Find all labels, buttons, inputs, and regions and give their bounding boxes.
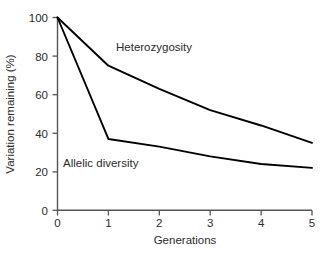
y-tick-label: 60	[35, 89, 48, 101]
series-label-allelic-diversity: Allelic diversity	[63, 157, 139, 169]
x-tick-label: 4	[258, 217, 265, 229]
x-tick-label: 5	[309, 217, 315, 229]
y-tick-labels: 100 80 60 40 20 0	[29, 12, 48, 217]
x-tick-label: 1	[105, 217, 111, 229]
chart-figure: 100 80 60 40 20 0 0 1 2 3 4 5 Generation…	[0, 0, 332, 253]
y-tick-label: 0	[42, 205, 48, 217]
x-tick-label: 2	[156, 217, 162, 229]
x-axis-ticks	[58, 210, 313, 215]
series-line-heterozygosity	[58, 18, 313, 143]
x-tick-label: 3	[207, 217, 213, 229]
x-tick-label: 0	[54, 217, 60, 229]
y-tick-label: 80	[35, 51, 48, 63]
y-tick-label: 100	[29, 12, 48, 24]
y-tick-label: 20	[35, 166, 48, 178]
x-tick-labels: 0 1 2 3 4 5	[54, 217, 315, 229]
y-tick-label: 40	[35, 128, 48, 140]
x-axis-title: Generations	[154, 234, 217, 246]
series-label-heterozygosity: Heterozygosity	[116, 41, 192, 53]
y-axis-ticks	[53, 18, 58, 211]
y-axis-title: Variation remaining (%)	[4, 54, 16, 173]
line-chart-plot: 100 80 60 40 20 0 0 1 2 3 4 5 Generation…	[0, 0, 332, 253]
